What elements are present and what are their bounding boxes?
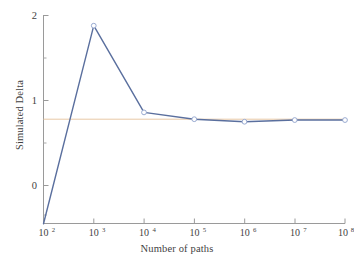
y-axis-title: Simulated Delta	[14, 35, 28, 195]
svg-text:3: 3	[102, 226, 106, 233]
series-markers-simulated-delta	[91, 23, 347, 124]
x-tick-label-1e7: 10 7	[290, 226, 307, 238]
x-tick-label-1e2: 10 2	[39, 226, 56, 238]
svg-text:4: 4	[152, 226, 156, 233]
simulated-delta-line-chart: 2 1 0 10 2 10 3 10 4 10 5	[0, 0, 354, 273]
data-point-marker	[192, 117, 197, 122]
x-tick-label-1e4: 10 4	[139, 226, 156, 238]
data-point-marker	[242, 119, 247, 124]
x-tick-label-1e6: 10 6	[240, 226, 257, 238]
x-axis-major-ticks	[44, 219, 346, 224]
svg-text:10: 10	[139, 227, 149, 238]
svg-text:7: 7	[303, 226, 307, 233]
figure-caption-fragment	[0, 266, 354, 273]
y-axis-major-ticks	[44, 16, 49, 186]
x-tick-label-1e5: 10 5	[189, 226, 206, 238]
y-tick-label-1: 1	[32, 95, 37, 106]
svg-text:2: 2	[52, 226, 56, 233]
data-point-marker	[292, 118, 297, 123]
x-tick-label-1e8: 10 8	[338, 226, 354, 238]
x-axis-title: Number of paths	[0, 243, 354, 254]
svg-text:10: 10	[290, 227, 300, 238]
y-tick-label-0: 0	[32, 180, 37, 191]
series-line-simulated-delta	[44, 26, 346, 224]
y-tick-label-2: 2	[32, 10, 37, 21]
svg-text:10: 10	[39, 227, 49, 238]
svg-text:10: 10	[338, 227, 348, 238]
data-point-marker	[142, 110, 147, 115]
svg-text:6: 6	[253, 226, 257, 233]
figure-container: 2 1 0 10 2 10 3 10 4 10 5	[0, 0, 354, 273]
svg-text:10: 10	[240, 227, 250, 238]
data-point-marker	[343, 118, 348, 123]
svg-text:10: 10	[89, 227, 99, 238]
svg-text:10: 10	[189, 227, 199, 238]
svg-text:5: 5	[203, 226, 207, 233]
x-tick-label-1e3: 10 3	[89, 226, 106, 238]
data-point-marker	[91, 23, 96, 28]
